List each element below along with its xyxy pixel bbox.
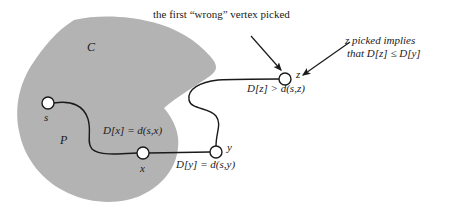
edge-label-dy: D[y] = d(s,y) bbox=[176, 158, 235, 171]
node-label-s: s bbox=[44, 111, 48, 124]
path-label-p: P bbox=[60, 134, 67, 148]
node-x bbox=[137, 147, 149, 159]
caption-first-wrong-vertex: the first “wrong” vertex picked bbox=[153, 8, 290, 21]
node-y bbox=[210, 146, 222, 158]
caption-z-picked-line2: that D[z] ≤ D[y] bbox=[345, 47, 421, 60]
node-label-z: z bbox=[296, 68, 300, 81]
caption-z-picked-line1: z picked implies bbox=[345, 34, 421, 47]
figure-dijkstra-proof: the first “wrong” vertex picked z picked… bbox=[0, 0, 453, 211]
edge-x-y bbox=[149, 152, 210, 153]
edge-label-dx: D[x] = d(s,x) bbox=[103, 124, 162, 137]
region-label-c: C bbox=[87, 41, 95, 55]
arrow-to-z-right bbox=[303, 42, 350, 75]
node-label-y: y bbox=[227, 141, 232, 154]
edge-label-dz: D[z] > d(s,z) bbox=[247, 82, 305, 95]
node-s bbox=[42, 97, 54, 109]
arrow-to-z-left bbox=[251, 36, 281, 70]
diagram-canvas bbox=[0, 0, 453, 211]
node-label-x: x bbox=[140, 162, 145, 175]
caption-z-picked-implies: z picked implies that D[z] ≤ D[y] bbox=[345, 34, 421, 59]
